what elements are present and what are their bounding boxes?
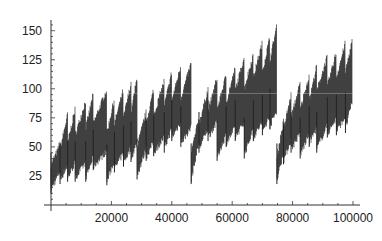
x-tick-label: 80000 (276, 211, 310, 225)
x-tick-label: 60000 (216, 211, 250, 225)
y-tick-label: 50 (29, 140, 43, 154)
scatter-chart: 20000400006000080000100000 2550751001251… (0, 0, 382, 241)
x-tick-label: 100000 (333, 211, 373, 225)
data-points (51, 24, 353, 193)
point-cloud (51, 24, 352, 191)
y-tick-label: 25 (29, 169, 43, 183)
y-tick-label: 150 (22, 24, 42, 38)
y-tick-label: 75 (29, 111, 43, 125)
y-tick-label: 100 (22, 82, 42, 96)
y-tick-label: 125 (22, 53, 42, 67)
y-axis-ticks: 255075100125150 (22, 24, 55, 199)
x-tick-label: 40000 (155, 211, 189, 225)
x-tick-label: 20000 (95, 211, 129, 225)
